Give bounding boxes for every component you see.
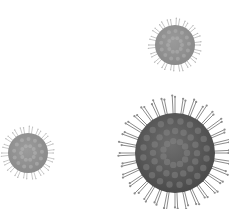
virus-particle-small-left	[0, 124, 57, 182]
virus-illustration	[0, 0, 229, 209]
virus-particle-small-top	[146, 16, 204, 74]
virus-particle-large	[115, 93, 229, 209]
